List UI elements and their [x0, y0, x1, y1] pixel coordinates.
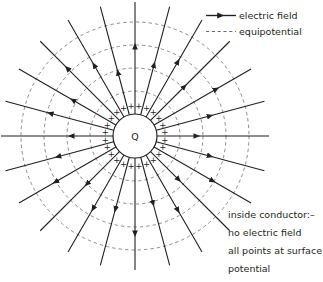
physics-diagram-figure: ++++++++++++++++++++++++ Q electric fiel… [0, 0, 323, 282]
note-line-potential: potential [228, 264, 270, 274]
surface-charge-plus: + [161, 135, 168, 145]
conductor-sphere-group: Q [113, 114, 157, 158]
note-line-no-electric-field: no electric field [228, 228, 301, 238]
field-diagram-svg: ++++++++++++++++++++++++ Q [0, 0, 323, 282]
electric-field-line-255 [100, 157, 129, 265]
note-line-inside-conductor: inside conductor:– [228, 210, 315, 220]
surface-charge-plus: + [135, 161, 142, 171]
legend-sample-lines [206, 16, 236, 32]
surface-charge-plus: + [128, 161, 135, 171]
surface-charge-plus: + [120, 159, 127, 169]
electric-field-line-135 [40, 41, 119, 120]
electric-field-line-315 [151, 152, 230, 231]
surface-charge-plus: + [143, 103, 150, 113]
electric-field-line-45 [151, 41, 230, 120]
electric-field-line-225 [40, 152, 119, 231]
conductor-charge-label: Q [131, 131, 138, 142]
surface-charge-plus: + [135, 101, 142, 111]
surface-charge-plus: + [150, 107, 157, 117]
legend-label-electric-field: electric field [239, 11, 298, 21]
note-line-all-points-at-surface: all points at surface [228, 246, 322, 256]
electric-field-line-345 [156, 142, 264, 171]
legend-label-equipotential: equipotential [239, 27, 302, 37]
surface-charge-plus: + [120, 103, 127, 113]
surface-charge-plus: + [128, 101, 135, 111]
